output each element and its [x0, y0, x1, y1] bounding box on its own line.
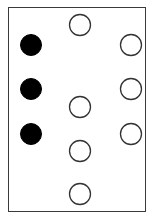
hollow-circle-icon: [70, 184, 91, 205]
hollow-circle-icon: [121, 79, 142, 100]
hollow-circle-icon: [121, 124, 142, 145]
hollow-circle-icon: [121, 35, 142, 56]
hollow-circle-icon: [70, 141, 91, 162]
dot-pattern: [0, 0, 154, 217]
filled-circle-icon: [21, 124, 42, 145]
hollow-circle-icon: [70, 15, 91, 36]
filled-circle-icon: [21, 35, 42, 56]
filled-circle-icon: [21, 79, 42, 100]
dot-layer: [21, 15, 142, 205]
hollow-circle-icon: [70, 97, 91, 118]
